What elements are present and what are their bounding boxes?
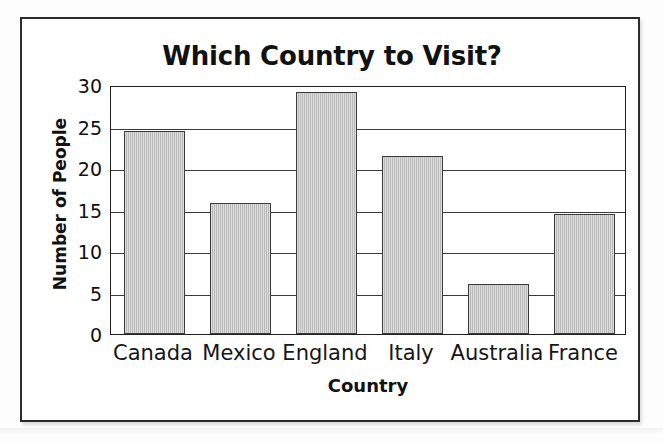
x-tick-label-france: France — [534, 341, 632, 365]
x-axis-title: Country — [110, 375, 626, 396]
y-tick-label: 10 — [56, 241, 102, 263]
bar-series — [111, 87, 625, 334]
y-tick-label: 25 — [56, 117, 102, 139]
x-axis-tick-labels: CanadaMexicoEnglandItalyAustraliaFrance — [110, 341, 626, 373]
scan-edge — [0, 428, 663, 433]
x-tick-label-mexico: Mexico — [190, 341, 288, 365]
y-tick-label: 20 — [56, 158, 102, 180]
x-tick-label-canada: Canada — [104, 341, 202, 365]
bar-england — [296, 92, 357, 334]
chart-title: Which Country to Visit? — [22, 41, 642, 71]
y-tick-label: 0 — [56, 324, 102, 346]
x-tick-label-italy: Italy — [362, 341, 460, 365]
y-tick-label: 15 — [56, 200, 102, 222]
y-tick-label: 5 — [56, 283, 102, 305]
y-axis-tick-labels: 051015202530 — [50, 86, 102, 335]
x-tick-label-australia: Australia — [448, 341, 546, 365]
bar-mexico — [210, 203, 271, 334]
chart-page: Which Country to Visit? Number of People… — [0, 0, 663, 444]
x-tick-label-england: England — [276, 341, 374, 365]
plot-area — [110, 86, 626, 335]
bar-canada — [124, 131, 185, 334]
y-tick-label: 30 — [56, 75, 102, 97]
chart-frame: Which Country to Visit? Number of People… — [20, 17, 640, 422]
bar-italy — [382, 156, 443, 334]
bar-australia — [468, 284, 529, 334]
bar-france — [554, 214, 615, 334]
